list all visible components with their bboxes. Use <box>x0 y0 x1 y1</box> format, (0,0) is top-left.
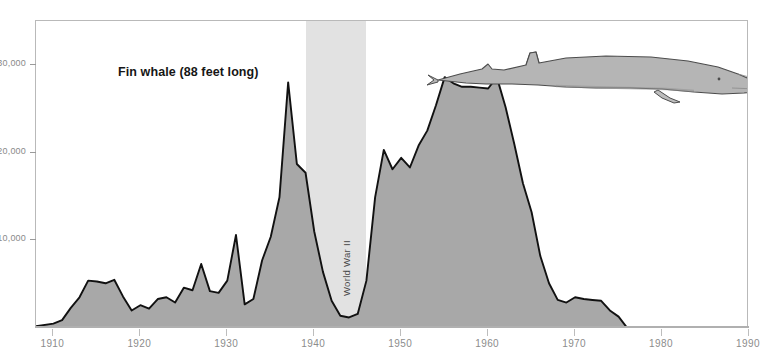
x-tick-mark <box>226 329 227 336</box>
area-fill <box>36 77 748 327</box>
plot-area: World War II Fin whale (88 feet long) <box>35 20 748 327</box>
x-tick-mark <box>487 329 488 336</box>
x-axis-baseline <box>35 326 749 328</box>
x-tick-label: 1940 <box>301 338 325 349</box>
x-tick-label: 1970 <box>562 338 586 349</box>
x-tick-mark <box>574 329 575 336</box>
chart-title: Fin whale (88 feet long) <box>118 65 259 79</box>
whale-dorsal-fin <box>526 52 539 65</box>
x-tick-label: 1950 <box>388 338 412 349</box>
x-tick-label: 1930 <box>214 338 238 349</box>
x-tick-mark <box>139 329 140 336</box>
y-tick-label: 10,000 <box>0 233 26 243</box>
whale-eye <box>718 78 721 81</box>
fin-whale-illustration <box>426 44 748 110</box>
x-tick-mark <box>313 329 314 336</box>
whale-pectoral-fin <box>654 90 680 103</box>
y-tick-label: 30,000 <box>0 58 26 68</box>
x-tick-label: 1920 <box>127 338 151 349</box>
y-tick-mark <box>30 152 36 153</box>
whale-tail-fluke <box>427 75 438 85</box>
x-tick-mark <box>661 329 662 336</box>
x-tick-label: 1990 <box>736 338 760 349</box>
x-tick-mark <box>52 329 53 336</box>
whaling-catch-chart: World War II Fin whale (88 feet long) <box>0 0 764 359</box>
y-tick-mark <box>30 64 36 65</box>
x-tick-label: 1910 <box>40 338 64 349</box>
x-tick-mark <box>400 329 401 336</box>
y-tick-label: 20,000 <box>0 146 26 156</box>
x-tick-mark <box>748 329 749 336</box>
x-tick-label: 1980 <box>649 338 673 349</box>
y-tick-mark <box>30 239 36 240</box>
x-tick-label: 1960 <box>475 338 499 349</box>
